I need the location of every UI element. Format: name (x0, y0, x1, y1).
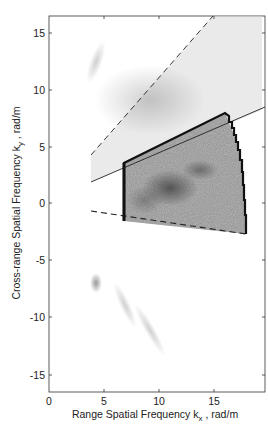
svg-text:15: 15 (208, 395, 220, 407)
spatial-frequency-plot: 15 10 5 0 -5 -10 -15 0 5 10 15 Range Spa… (0, 0, 268, 433)
x-tick-labels: 0 5 10 15 (46, 395, 220, 407)
svg-text:0: 0 (39, 197, 45, 209)
svg-text:15: 15 (33, 27, 45, 39)
svg-text:10: 10 (33, 84, 45, 96)
svg-text:10: 10 (153, 395, 165, 407)
svg-text:0: 0 (46, 395, 52, 407)
svg-text:5: 5 (39, 141, 45, 153)
y-axis-label: Cross-range Spatial Frequency ky , rad/m (10, 106, 25, 299)
y-tick-labels: 15 10 5 0 -5 -10 -15 (30, 27, 45, 381)
svg-text:-15: -15 (30, 369, 45, 381)
x-axis-label: Range Spatial Frequency kx , rad/m (72, 408, 239, 423)
svg-text:5: 5 (101, 395, 107, 407)
svg-text:-10: -10 (30, 311, 45, 323)
svg-text:-5: -5 (36, 254, 45, 266)
